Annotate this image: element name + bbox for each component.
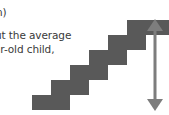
arrow-head-up: [147, 19, 163, 31]
arrow-head-down: [147, 99, 163, 111]
figure-canvas: n) ut the average ar-old child,: [0, 0, 169, 115]
arrow-shaft: [154, 26, 157, 104]
height-arrow-double-headed-icon: [0, 0, 169, 115]
